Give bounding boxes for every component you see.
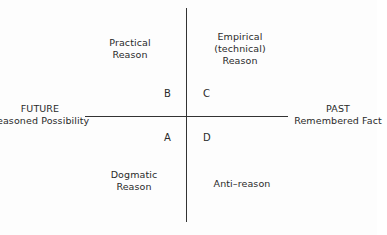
quadrant-d-letter: D <box>203 132 211 144</box>
horizontal-axis <box>85 116 288 117</box>
quadrant-c-label: Empirical (technical) Reason <box>205 31 275 67</box>
quadrant-d-line1: Anti–reason <box>212 178 272 190</box>
quadrant-b-letter: B <box>164 88 171 100</box>
quadrant-c-line3: Reason <box>205 55 275 67</box>
past-subtitle: Remembered Fact <box>288 115 387 127</box>
future-title: FUTURE <box>0 103 90 115</box>
past-title: PAST <box>288 103 387 115</box>
quadrant-b-label: Practical Reason <box>105 37 155 61</box>
past-axis-label: PAST Remembered Fact <box>288 103 387 127</box>
quadrant-a-line2: Reason <box>109 181 159 193</box>
quadrant-b-line2: Reason <box>105 49 155 61</box>
quadrant-c-line1: Empirical <box>205 31 275 43</box>
vertical-axis <box>186 8 187 222</box>
quadrant-b-line1: Practical <box>105 37 155 49</box>
quadrant-c-letter: C <box>203 88 210 100</box>
quadrant-d-label: Anti–reason <box>212 178 272 190</box>
future-axis-label: FUTURE Reasoned Possibility <box>0 103 90 127</box>
quadrant-a-label: Dogmatic Reason <box>109 169 159 193</box>
future-subtitle: Reasoned Possibility <box>0 115 90 127</box>
quadrant-c-line2: (technical) <box>205 43 275 55</box>
quadrant-a-letter: A <box>164 132 171 144</box>
quadrant-a-line1: Dogmatic <box>109 169 159 181</box>
